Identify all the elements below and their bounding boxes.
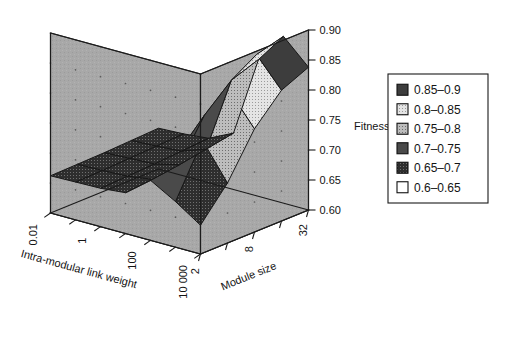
z-tick-label: 0.65 [320,174,341,186]
legend-label: 0.7–0.75 [414,142,461,156]
legend-swatch [397,104,408,115]
legend-label: 0.85–0.9 [414,83,461,97]
x-axis-title: Intra-modular link weight [20,247,139,290]
legend-swatch [397,84,408,95]
z-axis-title: Fitness [354,120,390,132]
z-tick-label: 0.75 [320,114,341,126]
y-tick-label: 2 [189,268,201,274]
x-tick-label: 1 [77,238,89,244]
y-tick-label: 32 [297,224,309,236]
legend-swatch [397,143,408,154]
legend-label: 0.8–0.85 [414,103,461,117]
legend-label: 0.75–0.8 [414,122,461,136]
legend-label: 0.65–0.7 [414,161,461,175]
x-tick-label: 10 000 [177,265,189,299]
y-tick-label: 8 [243,246,255,252]
surface-plot-figure: 0.600.650.700.750.800.850.900.01110010 0… [0,0,506,344]
z-tick-label: 0.70 [320,144,341,156]
x-tick-label: 100 [127,251,139,269]
legend: 0.85–0.90.8–0.850.75–0.80.7–0.750.65–0.7… [388,74,488,203]
z-tick-label: 0.80 [320,84,341,96]
legend-swatch [397,123,408,134]
z-tick-label: 0.90 [320,24,341,36]
legend-swatch [397,182,408,193]
x-tick-label: 0.01 [27,224,39,245]
legend-swatch [397,162,408,173]
y-axis-title: Module size [219,259,278,292]
z-tick-label: 0.85 [320,54,341,66]
legend-label: 0.6–0.65 [414,181,461,195]
z-tick-label: 0.60 [320,204,341,216]
